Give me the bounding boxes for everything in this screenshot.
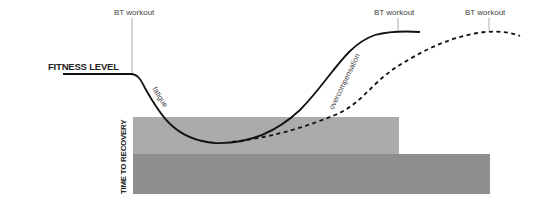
bt-workout-label-dashed-peak: BT workout (465, 8, 505, 17)
fitness-level-label: FITNESS LEVEL (48, 61, 119, 72)
short-recovery-bar (133, 117, 399, 155)
bt-workout-label-start: BT workout (114, 8, 154, 17)
long-recovery-bar (133, 154, 490, 194)
time-to-recovery-label: TIME TO RECOVERY (119, 120, 128, 194)
bt-workout-label-solid-peak: BT workout (374, 8, 414, 17)
recovery-diagram: BT workout BT workout BT workout FITNESS… (0, 0, 535, 221)
diagram-graphics (0, 0, 535, 221)
